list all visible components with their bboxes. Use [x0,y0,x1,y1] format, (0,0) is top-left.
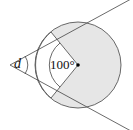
angle-d-label: d [14,56,21,72]
geometry-diagram: d 100° [0,0,133,130]
central-angle-label: 100° [50,57,75,73]
center-point [76,63,80,67]
angle-d-arc [25,56,28,74]
